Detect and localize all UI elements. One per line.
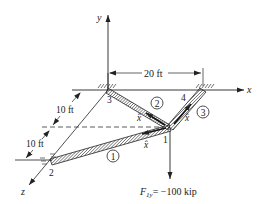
element-2-member	[106, 88, 170, 130]
x-axis-label: x	[246, 84, 252, 95]
dimension-10ft-lower-label: 10 ft	[26, 139, 44, 149]
node-4-label: 4	[181, 93, 186, 103]
node-3-label: 3	[107, 95, 112, 105]
support-node4	[196, 84, 214, 88]
element-2-badge: 2	[151, 97, 163, 109]
element-2-local-axis-label: x̂	[136, 113, 142, 123]
grid-structure-diagram: y x z 20 ft 10 ft 10 ft	[0, 0, 263, 204]
svg-text:1: 1	[111, 152, 116, 162]
dimension-10ft-upper-label: 10 ft	[56, 105, 74, 115]
dimension-20ft-label: 20 ft	[144, 68, 163, 79]
element-1-badge: 1	[107, 150, 119, 162]
element-1-local-axis-label: x̂	[143, 140, 149, 150]
node-2-label: 2	[49, 168, 54, 178]
element-3-local-axis-label: x̂	[184, 113, 190, 123]
z-axis-label: z	[20, 186, 25, 197]
svg-text:3: 3	[201, 108, 206, 118]
load-label: F1y= −100 kip	[139, 186, 197, 199]
svg-text:2: 2	[155, 99, 160, 109]
support-node3	[98, 84, 116, 88]
element-3-badge: 3	[197, 106, 209, 118]
node-1-label: 1	[163, 135, 168, 145]
y-axis-label: y	[96, 12, 102, 23]
